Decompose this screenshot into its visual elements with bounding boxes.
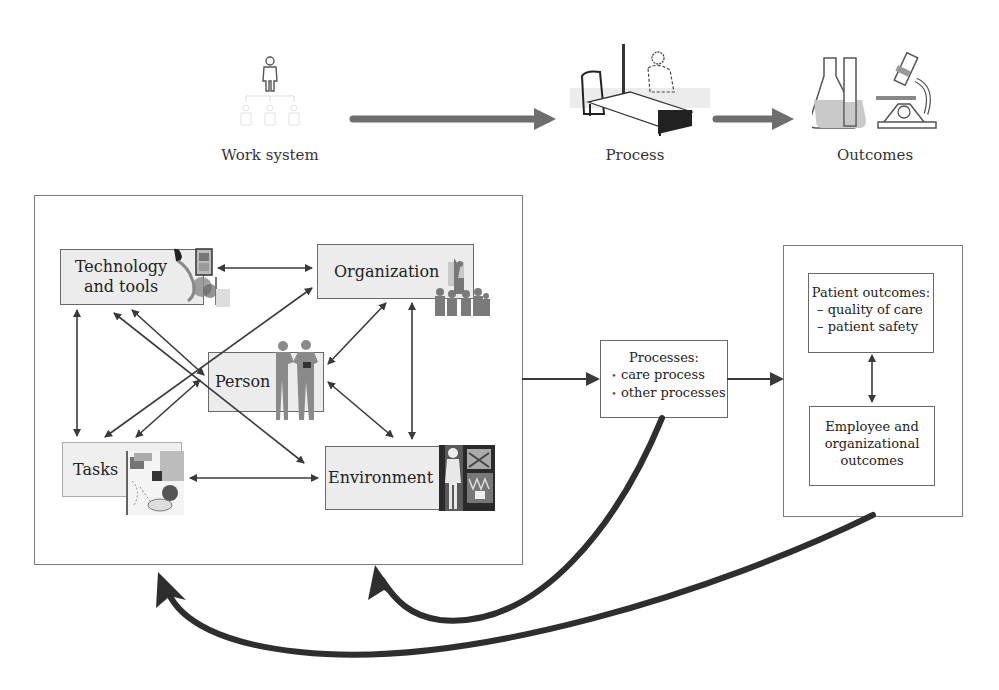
employee-outcomes-box[interactable]: Employee and organizational outcomes — [809, 406, 935, 486]
patient-outcomes-box[interactable]: Patient outcomes: – quality of care – pa… — [808, 273, 934, 353]
technology-label-line1: Technology — [65, 257, 177, 277]
employee-outcomes-line1: Employee and — [810, 418, 934, 435]
processes-title: Processes: — [601, 349, 727, 366]
processes-item-other: • other processes — [601, 384, 727, 402]
work-system-caption: Work system — [205, 146, 335, 164]
environment-image-icon — [439, 445, 495, 511]
tasks-label: Tasks — [63, 460, 118, 480]
process-caption: Process — [590, 146, 680, 164]
processes-item-care: • care process — [601, 366, 727, 384]
technology-label-line2: and tools — [65, 277, 177, 297]
bullet-icon: • — [611, 370, 617, 381]
patient-outcomes-title: Patient outcomes: — [809, 284, 933, 301]
tasks-image-icon — [126, 451, 184, 515]
person-label: Person — [209, 372, 270, 392]
outcomes-caption: Outcomes — [820, 146, 930, 164]
processes-box[interactable]: Processes: • care process • other proces… — [600, 340, 728, 418]
organization-image-icon — [434, 254, 490, 316]
outcomes-icon — [812, 50, 942, 140]
environment-label: Environment — [326, 468, 433, 488]
organization-label: Organization — [318, 262, 439, 282]
patient-outcomes-quality: – quality of care — [809, 301, 933, 318]
technology-image-icon — [172, 247, 232, 309]
patient-outcomes-safety: – patient safety — [809, 318, 933, 335]
person-image-icon — [270, 340, 322, 422]
processes-item-other-label: other processes — [621, 385, 726, 400]
bullet-icon: • — [611, 388, 617, 399]
process-icon — [570, 40, 710, 138]
employee-outcomes-line3: outcomes — [810, 452, 934, 469]
employee-outcomes-line2: organizational — [810, 435, 934, 452]
processes-item-care-label: care process — [621, 367, 705, 382]
work-system-icon — [228, 52, 312, 136]
